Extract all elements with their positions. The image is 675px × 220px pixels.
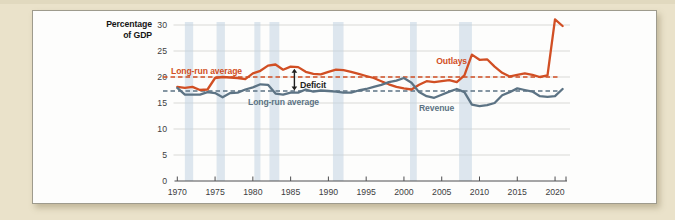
x-tick-label: 2015 (508, 187, 527, 197)
x-tick-label: 1995 (357, 187, 376, 197)
x-tick-label: 2020 (545, 187, 564, 197)
y-tick-label: 25 (157, 46, 167, 56)
x-tick-label: 2010 (470, 187, 489, 197)
y-axis-title-line2: of GDP (78, 30, 152, 41)
x-tick-label: 2005 (432, 187, 451, 197)
revenue-label: Revenue (419, 103, 454, 113)
deficit-arrow-head-down (292, 87, 298, 91)
outlays-line (177, 19, 562, 90)
recession-band (217, 22, 225, 181)
outlays-label: Outlays (436, 56, 467, 66)
revenue-line (177, 78, 562, 106)
x-tick-label: 1975 (205, 187, 224, 197)
y-tick-label: 15 (157, 98, 167, 108)
y-tick-label: 5 (162, 150, 167, 160)
y-tick-label: 30 (157, 20, 167, 30)
deficit-label: Deficit (300, 80, 326, 90)
page-background: { "page": { "background_color": "#eae2ca… (0, 0, 675, 220)
y-tick-label: 10 (157, 124, 167, 134)
x-tick-label: 2000 (394, 187, 413, 197)
revenue-average-label: Long-run average (248, 97, 319, 107)
recession-band (185, 22, 193, 181)
recession-band (410, 22, 417, 181)
x-tick-label: 1980 (243, 187, 262, 197)
x-tick-label: 1970 (168, 187, 187, 197)
y-tick-label: 0 (162, 176, 167, 186)
x-tick-label: 1990 (319, 187, 338, 197)
recession-band (333, 22, 344, 181)
x-tick-label: 1985 (281, 187, 300, 197)
y-axis-title: Percentage of GDP (78, 19, 152, 40)
y-axis-title-line1: Percentage (78, 19, 152, 30)
deficit-arrow-head-up (292, 69, 298, 73)
outlays-average-label: Long-run average (171, 66, 242, 76)
